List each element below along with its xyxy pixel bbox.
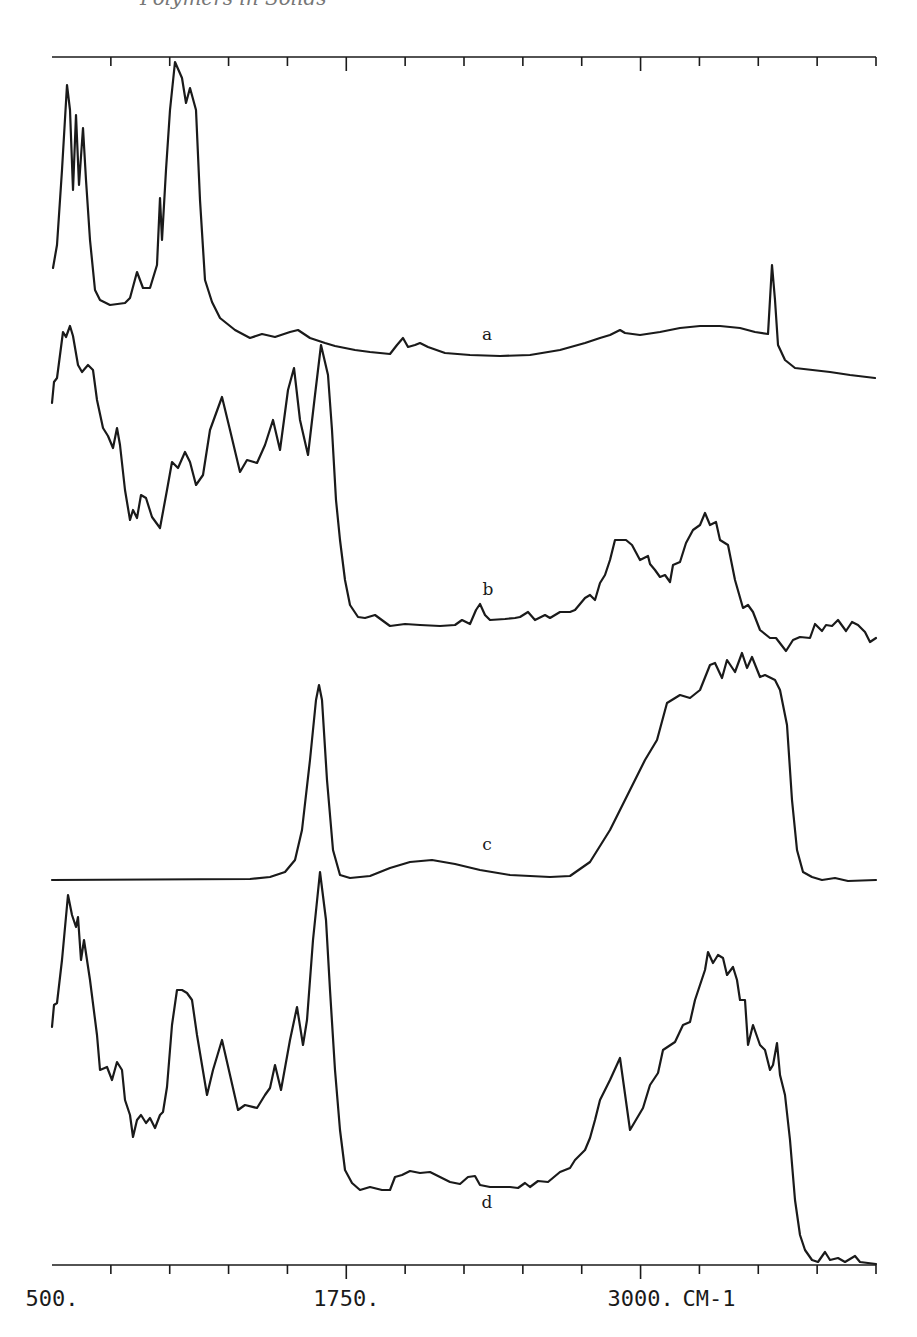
x-tick-label: 500. — [26, 1286, 79, 1311]
x-tick-label: 3000. — [607, 1286, 673, 1311]
trace-label-a: a — [482, 324, 492, 344]
spectrum-trace-c — [52, 653, 876, 881]
ir-spectra-chart: 500.1750.3000.CM-1 abcd — [0, 0, 917, 1337]
bottom-axis: 500.1750.3000.CM-1 — [26, 1265, 876, 1311]
spectrum-trace-a — [53, 62, 875, 378]
x-tick-label: 1750. — [313, 1286, 379, 1311]
trace-label-d: d — [482, 1192, 493, 1212]
spectra-traces — [52, 62, 876, 1264]
spectrum-trace-b — [52, 326, 876, 651]
trace-labels: abcd — [482, 324, 494, 1212]
x-unit-label: CM-1 — [683, 1286, 736, 1311]
trace-label-b: b — [483, 579, 494, 599]
trace-label-c: c — [482, 834, 492, 854]
spectrum-trace-d — [52, 872, 876, 1264]
